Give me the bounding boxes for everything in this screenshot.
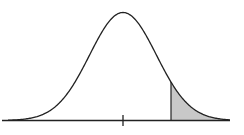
bell-curve — [8, 13, 230, 121]
normal-curve-diagram — [0, 0, 244, 135]
shaded-tail-area — [171, 82, 228, 120]
